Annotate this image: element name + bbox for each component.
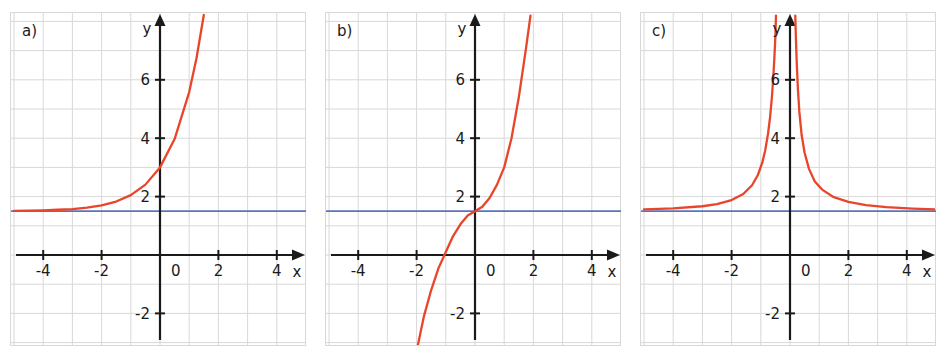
plot-background: [326, 13, 621, 346]
y-tick-label: 2: [770, 188, 780, 206]
y-axis-label: y: [458, 20, 467, 38]
y-tick-label: 2: [140, 188, 150, 206]
y-tick-label: 2: [455, 188, 465, 206]
x-tick-label: 2: [529, 262, 539, 280]
x-axis-label: x: [923, 263, 932, 281]
x-tick-label: 2: [844, 262, 854, 280]
x-tick-label: 4: [902, 262, 912, 280]
y-tick-label: 6: [140, 71, 150, 89]
x-tick-label: -4: [36, 262, 51, 280]
x-tick-label: -2: [409, 262, 424, 280]
y-tick-label: -2: [450, 305, 465, 323]
plot-background: [641, 13, 936, 346]
y-tick-label: -2: [135, 305, 150, 323]
x-tick-label: 4: [272, 262, 282, 280]
y-tick-label: 4: [770, 130, 780, 148]
chart-panel-b: -4-2024-2246xyb): [325, 12, 621, 346]
x-tick-label: 2: [214, 262, 224, 280]
x-tick-label: 0: [486, 262, 496, 280]
chart-panel-c: -4-2024-2246xyc): [640, 12, 936, 346]
y-tick-label: -2: [765, 305, 780, 323]
x-tick-label: -4: [666, 262, 681, 280]
chart-panel-a: -4-2024-2246xya): [10, 12, 306, 346]
panel-label: b): [337, 22, 352, 40]
y-tick-label: 4: [140, 130, 150, 148]
x-tick-label: 0: [801, 262, 811, 280]
panel-label: a): [22, 22, 37, 40]
panel-label: c): [652, 22, 666, 40]
y-tick-label: 6: [455, 71, 465, 89]
x-tick-label: -2: [724, 262, 739, 280]
x-tick-label: -4: [351, 262, 366, 280]
x-tick-label: -2: [94, 262, 109, 280]
y-tick-label: 4: [455, 130, 465, 148]
x-tick-label: 4: [587, 262, 597, 280]
x-tick-label: 0: [171, 262, 181, 280]
y-axis-label: y: [773, 20, 782, 38]
y-axis-label: y: [143, 20, 152, 38]
figure-root: -4-2024-2246xya)-4-2024-2246xyb)-4-2024-…: [0, 0, 942, 358]
x-axis-label: x: [293, 263, 302, 281]
y-tick-label: 6: [770, 71, 780, 89]
x-axis-label: x: [608, 263, 617, 281]
plot-background: [11, 13, 306, 346]
